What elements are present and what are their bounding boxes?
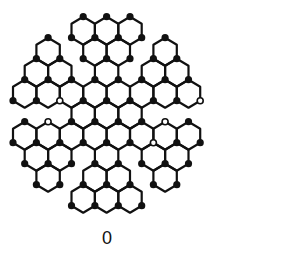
atom-dot xyxy=(173,139,180,146)
hollow-atom-dot xyxy=(57,98,63,104)
atom-dot xyxy=(33,139,40,146)
atom-dot xyxy=(68,202,75,209)
atom-dot xyxy=(68,34,75,41)
hexagon-cell xyxy=(13,80,36,108)
atom-dot xyxy=(138,202,145,209)
hexagon-cell xyxy=(118,185,141,213)
atom-dot xyxy=(126,13,133,20)
hexagon-cell xyxy=(72,185,95,213)
atom-dot xyxy=(9,97,16,104)
atom-dot xyxy=(91,118,98,125)
atom-dot xyxy=(33,97,40,104)
atom-dot xyxy=(173,97,180,104)
atom-dot xyxy=(103,139,110,146)
hollow-atom-dot xyxy=(197,98,203,104)
atom-dot xyxy=(80,97,87,104)
hexagon-cell xyxy=(177,80,200,108)
hexagon-cell xyxy=(153,164,176,192)
atom-dot xyxy=(138,160,145,167)
atom-dot xyxy=(115,160,122,167)
hexagon-cell xyxy=(153,80,176,108)
diagram-caption: 0 xyxy=(92,228,122,249)
atom-dot xyxy=(173,55,180,62)
atom-dot xyxy=(91,34,98,41)
hexagon-cell xyxy=(95,185,118,213)
atom-dot xyxy=(21,160,28,167)
atom-dot xyxy=(150,97,157,104)
atom-dot xyxy=(138,118,145,125)
atom-dot xyxy=(33,181,40,188)
hollow-atom-dot xyxy=(150,140,156,146)
hollow-atom-dot xyxy=(45,119,51,125)
hexagon-cell xyxy=(36,164,59,192)
atom-dot xyxy=(68,118,75,125)
atom-dot xyxy=(185,118,192,125)
atom-dot xyxy=(103,97,110,104)
atom-dot xyxy=(197,139,204,146)
atom-dot xyxy=(45,76,52,83)
atom-dot xyxy=(68,76,75,83)
hexagon-cell xyxy=(36,80,59,108)
atom-dot xyxy=(115,76,122,83)
atom-dot xyxy=(91,76,98,83)
atom-dot xyxy=(138,76,145,83)
atom-dot xyxy=(103,181,110,188)
atom-dot xyxy=(103,55,110,62)
atom-dot xyxy=(126,139,133,146)
atom-dot xyxy=(91,202,98,209)
atom-dot xyxy=(21,118,28,125)
atom-dot xyxy=(185,160,192,167)
atom-dot xyxy=(126,181,133,188)
atom-dot xyxy=(115,202,122,209)
atom-dot xyxy=(9,139,16,146)
atom-dot xyxy=(91,160,98,167)
atom-dot xyxy=(33,55,40,62)
atom-dot xyxy=(162,34,169,41)
atom-dot xyxy=(185,76,192,83)
hexagonal-lattice-diagram xyxy=(0,0,281,255)
atom-dot xyxy=(115,118,122,125)
atom-dot xyxy=(115,34,122,41)
atom-dot xyxy=(162,76,169,83)
atom-dot xyxy=(80,181,87,188)
atom-dot xyxy=(173,181,180,188)
atom-dot xyxy=(80,139,87,146)
atom-dot xyxy=(56,139,63,146)
atom-dot xyxy=(56,181,63,188)
atom-dot xyxy=(21,76,28,83)
atom-dot xyxy=(45,34,52,41)
atom-dot xyxy=(80,55,87,62)
atom-dot xyxy=(126,55,133,62)
atom-dot xyxy=(150,181,157,188)
atom-dot xyxy=(56,55,63,62)
atom-dot xyxy=(162,160,169,167)
atom-dot xyxy=(138,34,145,41)
hollow-atom-dot xyxy=(162,119,168,125)
atom-dot xyxy=(45,160,52,167)
atom-dot xyxy=(80,13,87,20)
atom-dot xyxy=(68,160,75,167)
atom-dot xyxy=(150,55,157,62)
atom-dot xyxy=(103,13,110,20)
atom-dot xyxy=(126,97,133,104)
